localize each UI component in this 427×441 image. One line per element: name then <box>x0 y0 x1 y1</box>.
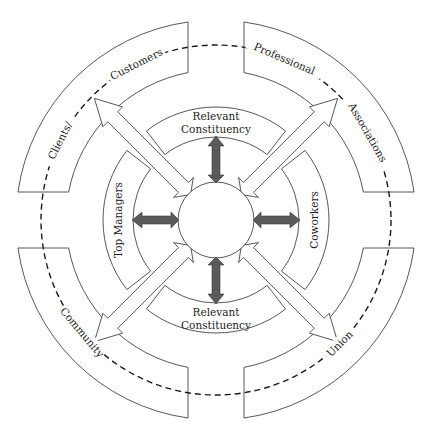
inner-label-text: Coworkers <box>308 191 320 249</box>
inner-label-right: Coworkers <box>308 191 320 249</box>
inner-label-text: Constituency <box>181 123 251 135</box>
stakeholder-diagram: Clients/CustomersProfessionalAssociation… <box>0 0 427 441</box>
inner-label-text: Relevant <box>193 306 241 318</box>
gray-arrow-up-icon <box>208 136 224 183</box>
gray-arrow-down-icon <box>208 257 224 304</box>
gray-arrow-right-icon <box>253 212 300 228</box>
inner-label-text: Top Managers <box>112 182 124 258</box>
inner-label-left: Top Managers <box>112 182 124 258</box>
diagram-canvas: Clients/CustomersProfessionalAssociation… <box>0 0 427 441</box>
gray-arrow-left-icon <box>132 212 179 228</box>
inner-label-text: Constituency <box>181 319 251 331</box>
central-hub-circle <box>178 182 254 258</box>
inner-label-text: Relevant <box>193 110 241 122</box>
